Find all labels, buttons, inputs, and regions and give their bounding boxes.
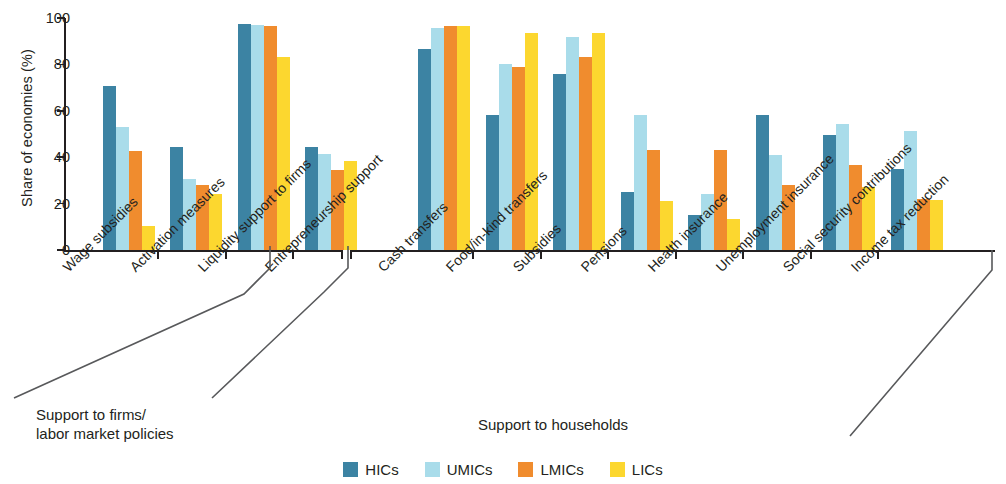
bar-group — [553, 18, 605, 250]
bar — [592, 33, 605, 250]
legend-swatch — [610, 462, 625, 477]
bar — [579, 57, 592, 250]
bar-chart: Share of economies (%) 020406080100 Wage… — [0, 0, 1006, 484]
bar — [264, 26, 277, 250]
y-tick-mark — [57, 156, 65, 158]
section-caption-firms: Support to firms/ labor market policies — [36, 405, 174, 443]
legend-swatch — [518, 462, 533, 477]
legend-label: HICs — [365, 461, 398, 478]
legend-item: UMICs — [425, 461, 493, 478]
legend-item: LICs — [610, 461, 663, 478]
bar — [647, 150, 660, 250]
legend-label: LICs — [632, 461, 663, 478]
bar — [621, 192, 634, 250]
y-tick-mark — [57, 110, 65, 112]
bar-group — [621, 18, 673, 250]
section-bracket-households-right — [826, 250, 1006, 440]
bar — [512, 67, 525, 250]
y-tick-mark — [57, 17, 65, 19]
bar — [277, 57, 290, 250]
y-tick-mark — [57, 64, 65, 66]
bar — [444, 26, 457, 250]
section-caption-households: Support to households — [478, 415, 628, 434]
bar — [930, 200, 943, 250]
plot-area — [65, 18, 995, 250]
bar — [116, 127, 129, 250]
y-tick-mark — [57, 203, 65, 205]
legend-swatch — [343, 462, 358, 477]
bar — [566, 37, 579, 250]
section-bracket-households — [330, 246, 890, 416]
bar — [836, 124, 849, 250]
bar — [525, 33, 538, 250]
bar — [457, 26, 470, 250]
legend-label: LMICs — [540, 461, 583, 478]
legend-swatch — [425, 462, 440, 477]
legend-label: UMICs — [447, 461, 493, 478]
section-bracket-firms — [12, 246, 312, 406]
legend-item: HICs — [343, 461, 398, 478]
bar — [634, 115, 647, 250]
legend-item: LMICs — [518, 461, 583, 478]
legend: HICsUMICsLMICsLICs — [0, 461, 1006, 478]
